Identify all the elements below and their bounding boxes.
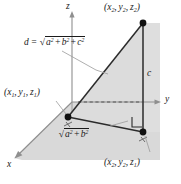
point-lower-right-label: (x2, y2, z1): [104, 158, 140, 169]
radical-group: √a2 + b2 + c2: [39, 36, 86, 48]
dot-upper-point: [140, 20, 147, 27]
exp-b: 2: [85, 130, 88, 136]
formula-leader-line: [62, 51, 108, 74]
paren-close: ): [137, 2, 140, 12]
radicand: a2 + b2: [64, 128, 89, 140]
x-axis-label: x: [7, 160, 11, 170]
figure-container: z y x c (x2, y2, z2) (x1, y1, z1) (x2, y…: [0, 0, 181, 184]
point-upper-label: (x2, y2, z2): [104, 3, 140, 14]
radical-group: √a2 + b2: [58, 128, 89, 140]
paren-close: ): [137, 157, 140, 167]
point-lower-left-label: (x1, y1, z1): [4, 88, 40, 99]
dot-lower-right-point: [140, 129, 147, 136]
vertical-face-shading: [143, 23, 160, 132]
radical-sign: √: [59, 131, 64, 141]
z-axis-arrow: [69, 11, 74, 18]
z-axis-label: z: [66, 2, 70, 12]
y-axis-label: y: [165, 95, 169, 105]
distance-formula-label: d = √a2 + b2 + c2: [24, 36, 85, 48]
dot-lower-left-point: [65, 114, 72, 121]
exp-c: 2: [82, 38, 85, 44]
radical-sign: √: [40, 39, 45, 49]
segment-c-label: c: [147, 69, 151, 79]
base-formula-label: √a2 + b2: [58, 128, 89, 140]
paren-close: ): [37, 87, 40, 97]
radicand: a2 + b2 + c2: [45, 36, 86, 48]
